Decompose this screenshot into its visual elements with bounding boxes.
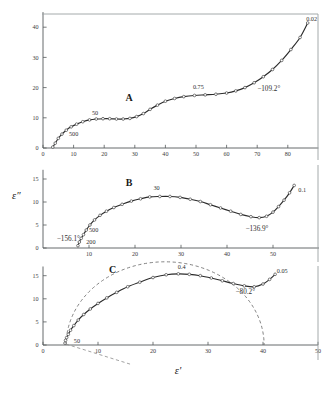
y-tick-label-a-3: 30 [32,55,38,61]
data-point-b-23 [250,215,253,218]
x-tick-label-a-6: 60 [224,151,230,157]
angle-annotation-c-3: −80.2° [236,288,256,296]
x-tick-label-a-1: 10 [71,151,77,157]
data-point-c-3 [67,333,70,336]
data-point-a-29 [262,75,265,78]
y-tick-label-c-0: 0 [35,342,38,348]
panel-c-curve [65,274,275,343]
data-point-b-29 [288,191,291,194]
x-tick-label-a-4: 40 [162,151,168,157]
data-point-a-23 [204,94,207,97]
x-tick-label-a-5: 50 [193,151,199,157]
y-tick-label-b-0: 0 [35,245,38,251]
data-point-b-14 [158,195,161,198]
frequency-label-b-4: 30 [153,184,159,191]
panel-c: 01020304050051015 C500.4−80.2°0.05 [32,262,321,365]
x-tick-label-b-2: 30 [178,251,184,257]
data-point-b-10 [121,203,124,206]
frequency-label-a-3: 0.75 [193,83,204,90]
angle-annotation-a-5: −109.2° [257,85,280,93]
x-tick-label-c-1: 10 [95,348,101,354]
panel-b-curve [78,185,294,245]
data-point-a-18 [156,104,159,107]
data-point-c-8 [89,308,92,311]
data-point-b-9 [112,206,115,209]
x-tick-label-a-8: 80 [285,151,291,157]
data-point-a-5 [70,126,73,129]
frequency-label-b-6: 0.1 [298,186,306,193]
data-point-b-15 [169,195,172,198]
data-point-b-6 [93,219,96,222]
y-tick-label-a-1: 10 [32,115,38,121]
data-point-c-7 [82,313,85,316]
data-point-b-7 [99,214,102,217]
data-point-a-4 [65,129,68,132]
cole-cole-figure: 01020304050607080010203040 A500500.750.0… [0,0,331,396]
data-point-c-2 [65,336,68,339]
data-point-a-19 [164,100,167,103]
x-axis-title: ε' [175,365,182,376]
data-point-a-13 [122,118,125,121]
y-tick-label-c-2: 10 [32,296,38,302]
x-tick-label-b-1: 20 [132,251,138,257]
x-tick-label-c-0: 0 [41,348,44,354]
frequency-label-a-4: 0.02 [306,15,317,22]
data-point-a-28 [253,81,256,84]
data-point-b-0 [77,244,80,247]
data-point-a-20 [173,97,176,100]
data-point-a-27 [244,86,247,89]
data-point-c-4 [69,329,72,332]
data-point-c-0 [64,342,67,345]
data-point-a-10 [102,117,105,120]
data-point-a-16 [142,112,145,115]
data-point-c-21 [232,282,235,285]
data-point-b-21 [229,210,232,213]
y-tick-label-c-1: 5 [35,319,38,325]
data-point-a-21 [182,95,185,98]
x-tick-label-a-2: 20 [101,151,107,157]
panel-c-data-points [64,273,277,345]
data-point-a-1 [54,142,57,145]
y-tick-label-b-1: 5 [35,222,38,228]
data-point-c-24 [262,283,265,286]
frequency-label-c-1: 50 [74,337,80,344]
data-point-b-26 [272,211,275,214]
y-axis-title: ε″ [12,190,21,201]
data-point-a-32 [290,48,293,51]
x-tick-label-a-0: 0 [41,151,44,157]
x-tick-label-c-4: 40 [260,348,266,354]
x-tick-label-a-3: 30 [132,151,138,157]
data-point-c-1 [64,339,67,342]
panel-a: 01020304050607080010203040 A500500.750.0… [32,12,318,156]
frequency-label-a-2: 50 [92,109,98,116]
data-point-c-18 [199,274,202,277]
angle-annotation-b-1: −156.1° [57,235,80,243]
data-point-a-33 [299,36,302,39]
data-point-a-17 [149,108,152,111]
data-point-a-9 [95,118,98,121]
data-point-a-30 [271,68,274,71]
data-point-c-12 [126,285,129,288]
data-point-c-19 [210,277,213,280]
angle-annotation-b-5: −136.9° [245,225,268,233]
data-point-b-12 [139,197,142,200]
data-point-b-30 [293,184,296,187]
y-tick-label-c-3: 15 [32,273,38,279]
panel-label-b: B [126,177,133,188]
frequency-label-b-2: 200 [86,238,95,245]
data-point-b-13 [148,196,151,199]
data-point-a-12 [115,118,118,121]
data-point-a-25 [225,92,228,95]
frequency-label-c-4: 0.05 [277,267,288,274]
panel-b-annotations: B−156.1°20050030−136.9°0.1 [57,177,306,245]
data-point-c-15 [165,273,168,276]
data-point-b-24 [258,216,261,219]
data-point-b-11 [130,200,133,203]
x-tick-label-c-2: 20 [150,348,156,354]
data-point-c-20 [221,279,224,282]
data-point-b-19 [209,203,212,206]
data-point-a-3 [61,133,64,136]
x-tick-label-b-4: 50 [270,251,276,257]
data-point-a-31 [280,59,283,62]
data-point-c-14 [152,276,155,279]
